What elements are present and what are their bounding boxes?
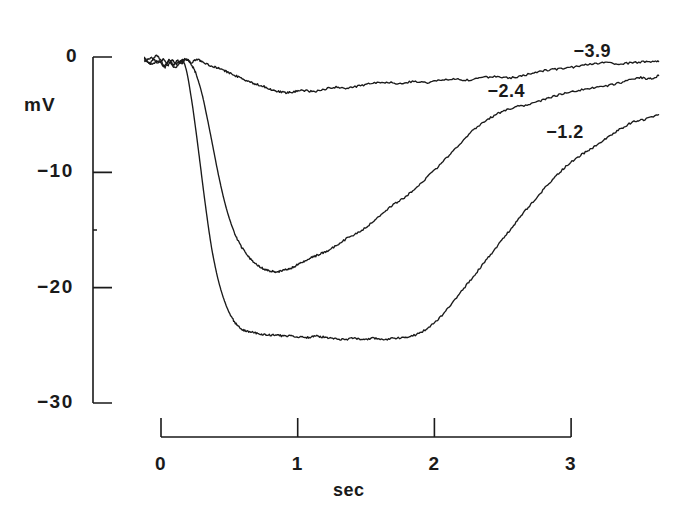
- series-label: −3.9: [574, 41, 612, 62]
- y-axis-title: mV: [24, 94, 56, 116]
- chart-figure: mV sec 0−10−20−30 0123 −3.9−2.4−1.2: [0, 0, 674, 520]
- series-label: −1.2: [546, 122, 584, 143]
- series-group: [145, 55, 659, 340]
- x-tick-label: 0: [155, 453, 167, 475]
- x-tick-label: 1: [292, 453, 304, 475]
- y-tick-label: −30: [37, 391, 74, 413]
- chart-canvas: [0, 0, 674, 520]
- y-tick-label: 0: [66, 45, 78, 67]
- y-tick-label: −10: [37, 160, 74, 182]
- x-axis-title: sec: [333, 480, 365, 501]
- x-axis-line: [161, 418, 571, 437]
- x-tick-label: 2: [428, 453, 440, 475]
- x-tick-label: 3: [565, 453, 577, 475]
- y-axis-line: [93, 57, 112, 403]
- series-label: −2.4: [487, 81, 525, 102]
- y-tick-label: −20: [37, 276, 74, 298]
- trace-line: [145, 58, 659, 272]
